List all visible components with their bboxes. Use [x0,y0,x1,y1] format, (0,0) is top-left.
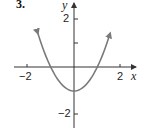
parabola-graph [0,0,150,128]
y-tick-label-2: 2 [63,12,69,24]
x-tick-label-2: 2 [117,70,123,82]
y-tick-label-neg2: −2 [58,107,71,119]
x-tick-label-neg2: −2 [19,70,32,82]
x-axis-label: x [131,69,136,84]
